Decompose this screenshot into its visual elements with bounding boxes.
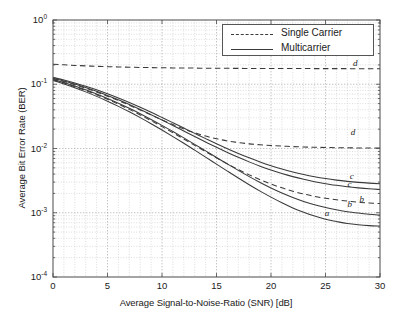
curve-label-mc-b: b (348, 199, 353, 209)
y-tick-1e-2: 10-2 (13, 142, 47, 154)
legend-swatch-solid (231, 49, 273, 50)
x-tick-25: 25 (311, 280, 341, 291)
y-tick-1e-4: 10-4 (13, 270, 47, 282)
legend-label-single-carrier: Single Carrier (281, 27, 342, 38)
y-tick-1e-3: 10-3 (13, 206, 47, 218)
x-tick-5: 5 (93, 280, 123, 291)
x-axis-title: Average Signal-to-Noise-Ratio (SNR) [dB] (8, 297, 396, 308)
y-tick-1e-1: 10-1 (13, 77, 47, 89)
chart-figure: Average Bit Error Rate (BER) Average Sig… (0, 0, 396, 321)
y-tick-1e0: 100 (13, 13, 47, 25)
chart-legend: Single Carrier Multicarrier (222, 24, 374, 56)
curve-label-mc-c2: c (348, 179, 352, 189)
legend-swatch-dashed (231, 34, 273, 35)
legend-entry-multicarrier: Multicarrier (223, 41, 373, 57)
curve-label-sc-d: d (353, 58, 358, 68)
x-tick-20: 20 (256, 280, 286, 291)
curve-label-sc-c: d (351, 127, 356, 137)
legend-entry-single-carrier: Single Carrier (223, 26, 373, 42)
curve-label-mc-a: a (325, 208, 330, 218)
curve-label-sc-b: b (360, 194, 365, 204)
legend-label-multicarrier: Multicarrier (281, 42, 330, 53)
x-tick-15: 15 (202, 280, 232, 291)
x-tick-10: 10 (147, 280, 177, 291)
x-tick-30: 30 (365, 280, 395, 291)
